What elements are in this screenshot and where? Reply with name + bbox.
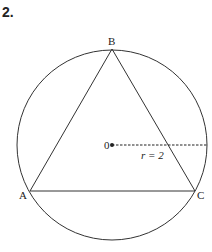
vertex-b-label: B — [108, 35, 115, 47]
radius-label: r = 2 — [141, 149, 164, 161]
vertex-a-label: A — [19, 189, 27, 201]
center-point — [110, 143, 114, 147]
center-label: 0 — [104, 139, 110, 151]
circle-triangle-diagram: 0 r = 2 B A C — [0, 0, 212, 252]
vertex-c-label: C — [197, 189, 204, 201]
